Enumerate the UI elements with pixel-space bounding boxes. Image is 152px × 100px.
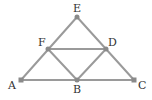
label-b: B	[73, 83, 81, 96]
point-f	[46, 47, 51, 52]
point-e	[75, 15, 80, 20]
triangle-diagram: A B C D E F	[0, 0, 152, 100]
label-f: F	[38, 36, 46, 49]
label-d: D	[108, 36, 117, 49]
point-c	[132, 78, 137, 83]
edge-fb	[48, 49, 77, 80]
label-a: A	[7, 79, 17, 92]
edge-bd	[77, 49, 106, 80]
label-e: E	[73, 2, 81, 15]
point-a	[19, 78, 24, 83]
point-b	[75, 78, 80, 83]
label-c: C	[138, 79, 146, 92]
